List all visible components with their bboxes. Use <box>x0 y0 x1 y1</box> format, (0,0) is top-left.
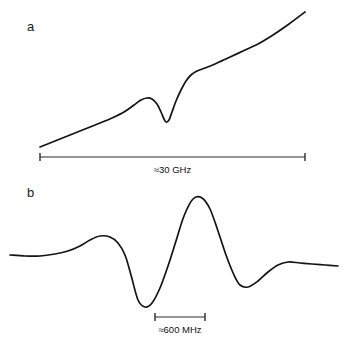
panel-a-scale-label: ≈30 GHz <box>1 164 343 175</box>
panel-b-trace <box>10 197 338 307</box>
panel-a-plot <box>0 0 343 180</box>
figure-container: a ≈30 GHz b ≈600 MHz <box>0 0 343 348</box>
panel-b-scale-bar <box>155 313 205 321</box>
panel-a-scale-bar <box>40 153 305 161</box>
panel-b-scale-label: ≈600 MHz <box>9 324 343 335</box>
panel-b: b ≈600 MHz <box>0 180 343 348</box>
cropped-caption-sliver <box>0 344 343 348</box>
panel-a: a ≈30 GHz <box>0 0 343 180</box>
panel-a-trace <box>40 12 305 147</box>
panel-b-plot <box>0 180 343 348</box>
